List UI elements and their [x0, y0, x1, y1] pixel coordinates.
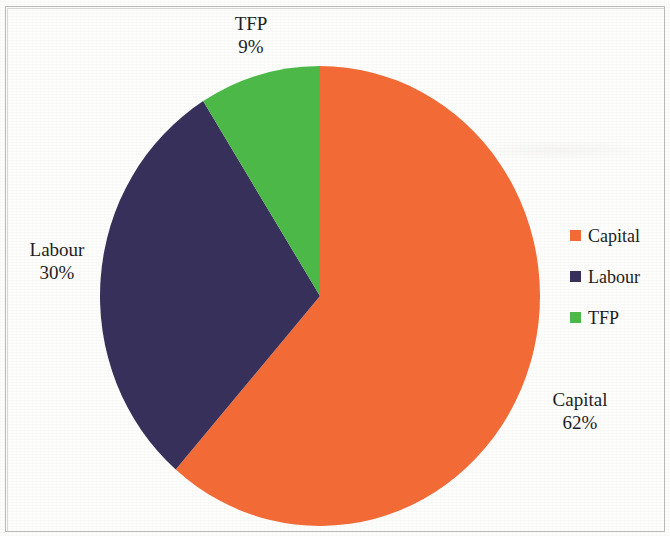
pie-data-label-labour: Labour 30%: [2, 238, 112, 284]
legend-swatch-capital-icon: [570, 230, 581, 241]
legend-item-tfp[interactable]: TFP: [570, 308, 666, 327]
pie-chart-figure: TFP 9% Labour 30% Capital 62% Capital La…: [0, 0, 670, 536]
pie-data-label-tfp: TFP 9%: [186, 12, 316, 58]
pie-data-label-labour-name: Labour: [2, 238, 112, 261]
pie-slices-group: [100, 66, 540, 526]
pie-data-label-tfp-percent: 9%: [186, 35, 316, 58]
legend-item-capital[interactable]: Capital: [570, 226, 666, 245]
pie-data-label-tfp-name: TFP: [186, 12, 316, 35]
legend-label-labour: Labour: [588, 268, 640, 286]
legend-swatch-labour-icon: [570, 271, 581, 282]
legend-swatch-tfp-icon: [570, 312, 581, 323]
pie-data-label-capital: Capital 62%: [516, 388, 644, 434]
legend-item-labour[interactable]: Labour: [570, 267, 666, 286]
chart-legend: Capital Labour TFP: [570, 226, 666, 327]
pie-data-label-labour-percent: 30%: [2, 261, 112, 284]
legend-label-capital: Capital: [588, 227, 640, 245]
pie-data-label-capital-percent: 62%: [516, 411, 644, 434]
legend-label-tfp: TFP: [588, 309, 619, 327]
pie-data-label-capital-name: Capital: [516, 388, 644, 411]
